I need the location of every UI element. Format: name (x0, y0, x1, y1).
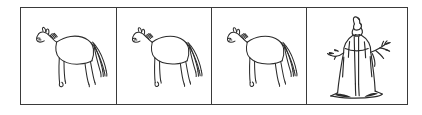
horse-drawing-icon (21, 8, 116, 104)
horse-drawing-icon (212, 8, 306, 104)
panel-cell-horse-2: Horse 2 (116, 8, 211, 104)
panel-cell-horse-1: Horse 1 (21, 8, 116, 104)
panel-strip-frame: Horse 1 (20, 7, 408, 105)
robed-figure-drawing-icon (307, 8, 407, 104)
panel-cell-robed-figure: Robed figure (306, 8, 407, 104)
horse-drawing-icon (117, 8, 211, 104)
panel-cell-horse-3: Horse 3 (211, 8, 306, 104)
